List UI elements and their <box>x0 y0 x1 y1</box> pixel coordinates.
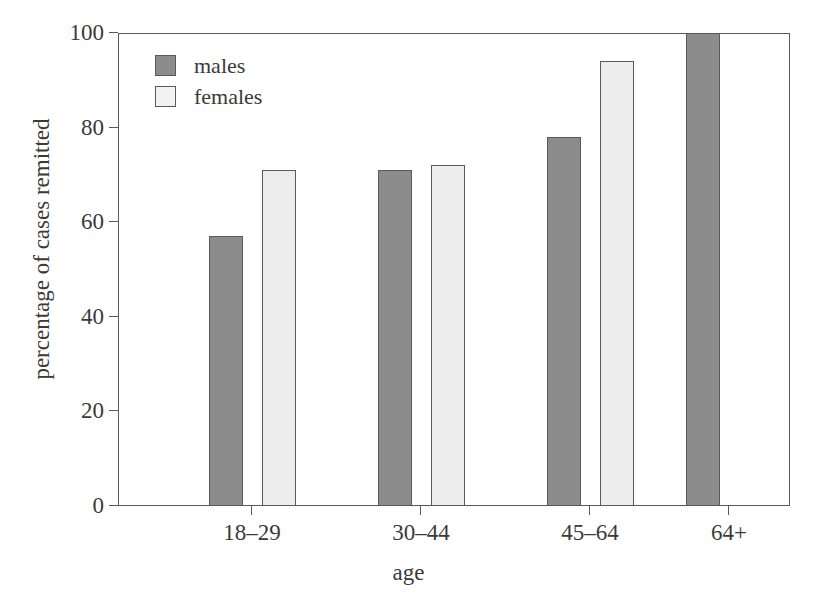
x-axis-tick-label: 30–44 <box>392 520 450 546</box>
bar-males-18-29 <box>209 236 243 506</box>
x-axis-tick-label: 18–29 <box>223 520 281 546</box>
x-axis-tick-label: 64+ <box>711 520 747 546</box>
legend-label-males: males <box>194 53 245 79</box>
bar-males-30-44 <box>378 170 412 506</box>
y-axis-tick-label: 80 <box>81 113 104 143</box>
x-axis: 18–2930–4445–6464+ <box>0 506 817 606</box>
y-axis-tick-label: 60 <box>81 207 104 237</box>
bar-chart-figure: 100806040200 percentage of cases remitte… <box>0 0 817 608</box>
legend-item-females: females <box>155 81 262 112</box>
y-axis-tick-mark <box>109 221 118 222</box>
y-axis-tick-label: 100 <box>70 18 105 48</box>
bar-females-45-64 <box>600 61 634 506</box>
y-axis-title: percentage of cases remitted <box>29 39 55 459</box>
legend-swatch-females <box>155 86 176 107</box>
y-axis-tick-mark <box>109 32 118 33</box>
y-axis-tick-mark <box>109 410 118 411</box>
x-axis-title: age <box>0 560 817 586</box>
legend-item-males: males <box>155 50 262 81</box>
y-axis-tick-label: 20 <box>81 396 104 426</box>
legend-swatch-males <box>155 55 176 76</box>
bar-females-30-44 <box>431 165 465 506</box>
x-axis-tick-mark <box>251 506 252 515</box>
bar-females-18-29 <box>262 170 296 506</box>
y-axis-tick-label: 40 <box>81 302 104 332</box>
legend-label-females: females <box>194 84 262 110</box>
y-axis-tick-mark <box>109 316 118 317</box>
bar-males-45-64 <box>547 137 581 506</box>
bar-males-64+ <box>686 33 720 506</box>
x-axis-tick-mark <box>728 506 729 515</box>
x-axis-tick-mark <box>589 506 590 515</box>
x-axis-tick-label: 45–64 <box>561 520 619 546</box>
y-axis-tick-mark <box>109 127 118 128</box>
x-axis-tick-mark <box>420 506 421 515</box>
legend: malesfemales <box>155 50 262 112</box>
